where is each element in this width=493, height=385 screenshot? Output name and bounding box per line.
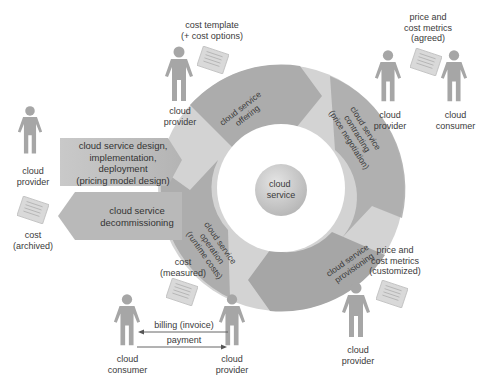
person-icon-provider-topright [375, 50, 401, 101]
actor-line: provider [333, 356, 383, 367]
doc-line: cost metrics [362, 256, 428, 267]
actor-line: cloud [428, 110, 483, 121]
decommissioning-box-label: cloud service decommissioning [92, 205, 182, 228]
actor-label-consumer-bottom: cloud consumer [100, 354, 155, 375]
decommissioning-line2: decommissioning [92, 217, 182, 229]
actor-label-provider-left: cloud provider [8, 166, 58, 187]
decommissioning-line1: cloud service [92, 205, 182, 217]
center-label-line1: cloud [269, 179, 291, 189]
doc-label-cost-measured: cost (measured) [155, 257, 211, 278]
doc-line: cost metrics [395, 23, 461, 34]
center-label-line2: service [267, 190, 296, 200]
design-line1: cloud service design, [64, 140, 182, 152]
cloud-service-lifecycle-diagram: cloud service offering cloud service con… [0, 0, 493, 385]
actor-line: provider [155, 117, 205, 128]
design-line2: implementation, [64, 152, 182, 164]
person-icon-consumer-bottom [114, 294, 140, 345]
doc-line: (+ cost options) [172, 31, 252, 42]
actor-line: cloud [155, 106, 205, 117]
doc-label-price-customized: price and cost metrics (customized) [362, 245, 428, 277]
actor-line: cloud [100, 354, 155, 365]
doc-line: cost template [172, 20, 252, 31]
design-box-label: cloud service design, implementation, de… [64, 140, 182, 186]
flow-label-payment: payment [148, 335, 220, 346]
document-icon-cost-measured [166, 278, 198, 306]
actor-line: consumer [100, 365, 155, 376]
document-icon-cost-template [197, 46, 229, 74]
document-icon-cost-archived [17, 196, 49, 224]
actor-label-provider-topright: cloud provider [365, 110, 415, 131]
doc-line: price and [395, 12, 461, 23]
payment-arrowhead-icon [221, 345, 227, 350]
design-line3: deployment [64, 163, 182, 175]
document-icon-price-agreed [410, 48, 442, 76]
actor-line: cloud [8, 166, 58, 177]
doc-line: cost [8, 230, 58, 241]
document-icon-price-customized [376, 280, 408, 308]
diagram-graphics: cloud service offering cloud service con… [0, 0, 493, 385]
doc-label-cost-template: cost template (+ cost options) [172, 20, 252, 41]
doc-line: (measured) [155, 268, 211, 279]
doc-label-cost-archived: cost (archived) [8, 230, 58, 251]
doc-label-price-agreed: price and cost metrics (agreed) [395, 12, 461, 44]
actor-label-provider-top: cloud provider [155, 106, 205, 127]
actor-line: provider [207, 365, 257, 376]
actor-label-provider-bottom: cloud provider [207, 354, 257, 375]
actor-line: cloud [333, 345, 383, 356]
design-line4: (pricing model design) [64, 175, 182, 187]
doc-line: (customized) [362, 266, 428, 277]
person-icon-provider-top [165, 47, 193, 102]
person-icon-consumer-topright [441, 50, 467, 101]
doc-line: (agreed) [395, 33, 461, 44]
doc-line: price and [362, 245, 428, 256]
actor-line: cloud [365, 110, 415, 121]
actor-label-consumer-topright: cloud consumer [428, 110, 483, 131]
actor-line: provider [365, 121, 415, 132]
doc-line: cost [155, 257, 211, 268]
actor-line: consumer [428, 121, 483, 132]
actor-line: cloud [207, 354, 257, 365]
person-icon-provider-left [18, 106, 42, 153]
actor-line: provider [8, 177, 58, 188]
svg-text:cloud service: cloud service [267, 179, 296, 200]
billing-arrowhead-icon [138, 330, 144, 335]
actor-label-provider-bottomright: cloud provider [333, 345, 383, 366]
flow-label-billing: billing (invoice) [148, 320, 220, 331]
doc-line: (archived) [8, 241, 58, 252]
